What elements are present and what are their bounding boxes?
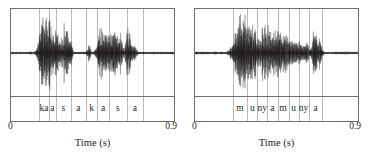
time-axis-left: 0 0.9 — [10, 122, 175, 138]
waveform-trace-left — [11, 9, 174, 97]
segment-label-left-0: ka — [39, 97, 48, 121]
segment-label-right-7: a — [309, 97, 323, 121]
waveform-envelope-left — [11, 17, 174, 90]
axis-title-left: Time (s) — [10, 138, 175, 149]
panel-right: munyamunya 0 0.9 Time (s) — [184, 0, 368, 160]
segment-label-right-6: ny — [299, 97, 309, 121]
waveform-trace-right — [195, 9, 358, 97]
axis-tick-max-left: 0.9 — [165, 122, 177, 132]
segment-label-left-5: a — [97, 97, 109, 121]
segment-label-left-6: s — [109, 97, 126, 121]
segment-label-left-7: a — [127, 97, 144, 121]
time-axis-right: 0 0.9 — [194, 122, 359, 138]
segment-label-right-0: m — [233, 97, 248, 121]
axis-title-right: Time (s) — [194, 138, 359, 149]
segment-label-right-2: ny — [257, 97, 267, 121]
plot-frame-left: kaasakasa — [10, 8, 175, 122]
segment-label-left-2: s — [56, 97, 71, 121]
segment-label-right-1: u — [247, 97, 257, 121]
waveform-area-right — [195, 9, 358, 97]
segment-label-left-1: a — [49, 97, 56, 121]
axis-tick-max-right: 0.9 — [349, 122, 361, 132]
segment-tier-left: kaasakasa — [11, 96, 174, 121]
segment-label-right-3: a — [267, 97, 277, 121]
panel-left: kaasakasa 0 0.9 Time (s) — [0, 0, 184, 160]
waveform-envelope-right — [195, 14, 358, 89]
segment-label-right-5: u — [289, 97, 299, 121]
segment-label-right-4: m — [278, 97, 289, 121]
segment-label-left-3: a — [71, 97, 87, 121]
waveform-area-left — [11, 9, 174, 97]
waveform-figure: kaasakasa 0 0.9 Time (s) munyamunya 0 0.… — [0, 0, 368, 160]
plot-frame-right: munyamunya — [194, 8, 359, 122]
segment-label-left-4: k — [86, 97, 97, 121]
axis-tick-min-right: 0 — [192, 122, 197, 132]
axis-tick-min-left: 0 — [8, 122, 13, 132]
segment-tier-right: munyamunya — [195, 96, 358, 121]
